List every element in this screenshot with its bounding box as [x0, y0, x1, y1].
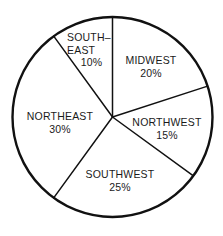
pie-chart: MIDWEST 20% NORTHWEST 15% SOUTHWEST 25% …	[0, 0, 223, 236]
slice-label-northeast-name: NORTHEAST	[22, 110, 98, 123]
slice-label-midwest-value: 20%	[118, 67, 184, 80]
slice-label-northwest: NORTHWEST 15%	[129, 116, 205, 141]
slice-label-northwest-name: NORTHWEST	[129, 116, 205, 129]
slice-label-northwest-value: 15%	[129, 129, 205, 142]
slice-label-southeast-name-line1: SOUTH–	[67, 31, 116, 44]
slice-label-southwest-value: 25%	[81, 181, 159, 194]
slice-label-southeast: SOUTH– EAST 10%	[67, 31, 116, 69]
slice-label-midwest-name: MIDWEST	[118, 54, 184, 67]
slice-label-southwest: SOUTHWEST 25%	[81, 168, 159, 193]
slice-label-northeast-value: 30%	[22, 123, 98, 136]
slice-label-southeast-value: 10%	[67, 56, 116, 69]
slice-label-northeast: NORTHEAST 30%	[22, 110, 98, 135]
slice-label-midwest: MIDWEST 20%	[118, 54, 184, 79]
slice-label-southeast-name-line2: EAST	[67, 44, 116, 57]
slice-label-southwest-name: SOUTHWEST	[81, 168, 159, 181]
